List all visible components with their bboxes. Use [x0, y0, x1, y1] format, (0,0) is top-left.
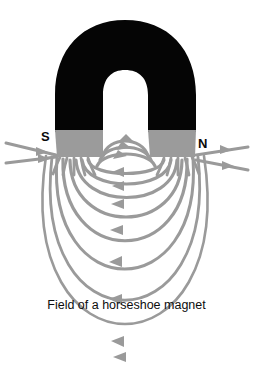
magnet-body [55, 20, 196, 132]
external-line-left-1 [6, 143, 56, 155]
arrowhead-external-right-2 [222, 161, 234, 170]
arrowhead-arc-5 [109, 256, 122, 267]
pole-label-south: S [41, 130, 50, 143]
arrowhead-arc-8 [113, 352, 126, 362]
arrowhead-external-left-1 [36, 147, 48, 156]
field-lines-group [6, 141, 248, 324]
arrowhead-arc-1 [112, 167, 124, 177]
arrowhead-arc-4 [110, 225, 123, 235]
external-line-left-2 [6, 157, 56, 163]
pole-piece-north [148, 130, 196, 157]
external-line-group-left [6, 143, 56, 163]
pole-label-north: N [198, 137, 207, 150]
arrowhead-arc-7 [111, 336, 124, 347]
magnet-field-diagram: S N Field of a horseshoe magnet [0, 0, 253, 366]
arrowhead-external-right-1 [220, 145, 232, 154]
figure-caption: Field of a horseshoe magnet [0, 299, 253, 313]
arrowhead-inner-1 [118, 134, 134, 142]
pole-piece-south [55, 130, 103, 157]
arrowhead-arc-3 [111, 199, 124, 209]
